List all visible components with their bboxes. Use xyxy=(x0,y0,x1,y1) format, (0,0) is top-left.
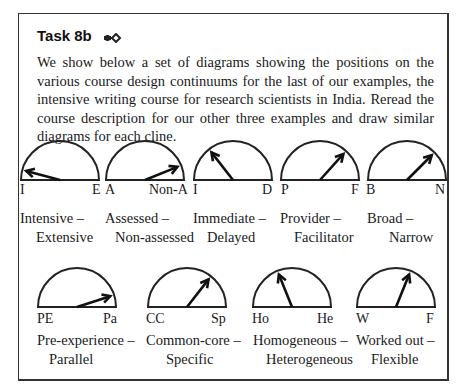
cline-name: Provider – Facilitator xyxy=(280,209,354,247)
dial-preexperience-parallel xyxy=(37,267,117,309)
task-title-text: Task 8b xyxy=(37,27,92,44)
semicircle-gauge-icon xyxy=(105,140,185,182)
right-end-label: F xyxy=(351,182,359,198)
cline-name: Pre-experience – Parallel xyxy=(37,331,135,369)
right-end-label: N xyxy=(435,182,445,198)
left-end-label: W xyxy=(356,311,369,327)
right-end-label: He xyxy=(317,311,333,327)
left-end-label: P xyxy=(281,182,289,198)
dial-intensive-extensive xyxy=(20,140,100,182)
dial-homogeneous-heterogeneous xyxy=(252,267,332,309)
semicircle-gauge-icon xyxy=(37,267,117,309)
cline-name: Assessed – Non-assessed xyxy=(105,209,194,247)
right-end-label: E xyxy=(92,182,101,198)
left-end-label: Ho xyxy=(252,311,269,327)
right-end-label: Non-A xyxy=(149,182,188,198)
task-instructions: We show below a set of diagrams showing … xyxy=(37,53,434,146)
dial-commoncore-specific xyxy=(147,267,227,309)
cline-name: Common-core – Specific xyxy=(146,331,241,369)
cline-name: Immediate – Delayed xyxy=(193,209,266,247)
semicircle-gauge-icon xyxy=(367,140,447,182)
right-end-label: Sp xyxy=(211,311,226,327)
semicircle-gauge-icon xyxy=(193,140,273,182)
right-end-label: F xyxy=(426,311,434,327)
dial-immediate-delayed xyxy=(193,140,273,182)
semicircle-gauge-icon xyxy=(147,267,227,309)
semicircle-gauge-icon xyxy=(20,140,100,182)
semicircle-gauge-icon xyxy=(280,140,360,182)
cline-name: Intensive – Extensive xyxy=(20,209,93,247)
semicircle-gauge-icon xyxy=(252,267,332,309)
left-end-label: B xyxy=(366,182,375,198)
left-end-label: A xyxy=(105,182,115,198)
task-title: Task 8b xyxy=(37,27,122,46)
dial-workedout-flexible xyxy=(356,267,436,309)
cline-name: Worked out – Flexible xyxy=(356,331,435,369)
left-end-label: CC xyxy=(146,311,165,327)
semicircle-gauge-icon xyxy=(356,267,436,309)
cline-name: Broad – Narrow xyxy=(367,209,433,247)
dial-provider-facilitator xyxy=(280,140,360,182)
dial-broad-narrow xyxy=(367,140,447,182)
cline-name: Homogeneous – Heterogeneous xyxy=(253,331,353,369)
left-end-label: I xyxy=(193,182,198,198)
left-end-label: I xyxy=(20,182,25,198)
right-end-label: D xyxy=(262,182,272,198)
dial-assessed-nonassessed xyxy=(105,140,185,182)
arrow-diamond-icon xyxy=(104,29,122,46)
right-end-label: Pa xyxy=(103,311,117,327)
left-end-label: PE xyxy=(37,311,53,327)
